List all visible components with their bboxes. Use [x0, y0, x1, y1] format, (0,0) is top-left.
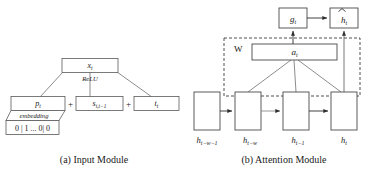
hidden-state-label-0: ht−w−1	[196, 135, 217, 146]
panel-a-group: xt ReLU pt + st,t−1 + tt embedding 0 | 1…	[6, 59, 179, 135]
activation-label-relu: ReLU	[81, 75, 99, 82]
onehot-vector-label: 0 | 1 ... 0| 0	[15, 124, 50, 133]
hidden-state-box-1	[235, 92, 261, 130]
caption-panel-a: (a) Input Module	[60, 154, 129, 166]
operator-plus-1: +	[68, 99, 73, 109]
caption-panel-b: (b) Attention Module	[242, 154, 328, 166]
embedding-label: embedding	[20, 112, 50, 119]
attention-fan-lines	[248, 60, 341, 92]
hidden-state-label-3: ht	[341, 135, 347, 146]
hidden-state-box-3	[331, 92, 357, 130]
hidden-state-box-2	[283, 92, 309, 130]
weight-label-w: W	[234, 44, 243, 54]
panel-b-group: W gt ht at	[194, 8, 360, 146]
figure-canvas: xt ReLU pt + st,t−1 + tt embedding 0 | 1…	[0, 0, 376, 180]
hidden-state-label-2: ht−1	[292, 135, 305, 146]
operator-plus-2: +	[126, 99, 131, 109]
hidden-state-box-0	[194, 92, 220, 130]
figure-container: xt ReLU pt + st,t−1 + tt embedding 0 | 1…	[0, 0, 376, 180]
hidden-state-label-1: ht−w	[243, 135, 257, 146]
